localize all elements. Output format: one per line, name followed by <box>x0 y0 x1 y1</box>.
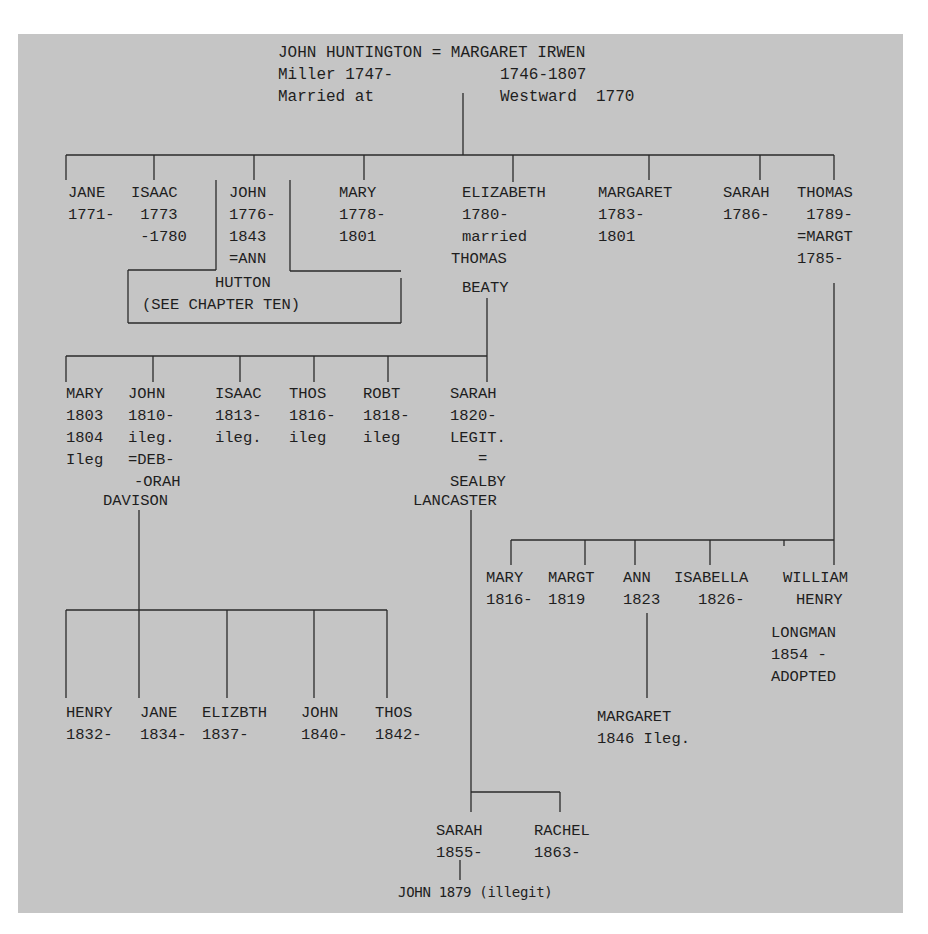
person-name: THOS <box>375 704 412 722</box>
person-name: MARY <box>339 184 376 202</box>
person-detail: 1776- <box>229 206 276 224</box>
hutton-box-line1: HUTTON <box>215 272 271 294</box>
person-detail: 1810- <box>128 407 175 425</box>
person-robt-beaty: ROBT 1818- ileg <box>363 383 410 449</box>
root-wife-note-2: Westward 1770 <box>500 86 634 108</box>
person-thos-davison: THOS 1842- <box>375 702 422 746</box>
root-husband-note-1: Miller 1747- <box>278 64 393 86</box>
person-detail: 1855- <box>436 844 483 862</box>
john-beaty-spouse-3: DAVISON <box>103 490 168 512</box>
person-detail: 1819 <box>548 591 585 609</box>
person-elizbth: ELIZBTH 1837- <box>202 702 267 746</box>
person-detail: 1780- <box>462 206 509 224</box>
person-john-davison: JOHN 1840- <box>301 702 348 746</box>
sarah-beaty-equals: = <box>478 448 487 470</box>
person-detail: ileg <box>363 429 400 447</box>
person-detail: 1846 Ileg. <box>597 730 690 748</box>
person-detail: 1816- <box>486 591 533 609</box>
person-isaac: ISAAC 1773 -1780 <box>131 182 187 248</box>
person-detail: 1785- <box>797 250 844 268</box>
root-wife-note-1: 1746-1807 <box>500 64 586 86</box>
person-name: JANE <box>140 704 177 722</box>
person-detail: ileg <box>289 429 326 447</box>
person-sarah-lancaster: SARAH 1855- <box>436 820 483 864</box>
hutton-box-line2: (SEE CHAPTER TEN) <box>142 294 300 316</box>
person-name: MARGARET <box>598 184 672 202</box>
person-detail: 1842- <box>375 726 422 744</box>
william-middle-name: HENRY <box>796 589 843 611</box>
person-name: HENRY <box>66 704 113 722</box>
root-couple: JOHN HUNTINGTON = MARGARET IRWEN <box>278 42 585 64</box>
person-name: SARAH <box>436 822 483 840</box>
person-detail: Ileg <box>66 451 103 469</box>
person-name: JOHN <box>229 184 266 202</box>
person-margaret-ann: MARGARET 1846 Ileg. <box>597 706 690 750</box>
person-detail: 1804 <box>66 429 103 447</box>
person-detail: -1780 <box>131 228 187 246</box>
person-elizabeth: ELIZABETH 1780- married <box>462 182 546 248</box>
person-john-1879: JOHN 1879 (illegit) <box>398 881 552 903</box>
person-mary-thomas: MARY 1816- <box>486 567 533 611</box>
person-name: ISAAC <box>131 184 178 202</box>
person-detail: 1803 <box>66 407 103 425</box>
person-rachel-lancaster: RACHEL 1863- <box>534 820 590 864</box>
person-detail: 1783- <box>598 206 645 224</box>
person-name: THOS <box>289 385 326 403</box>
person-detail: 1834- <box>140 726 187 744</box>
person-thomas: THOMAS 1789- =MARGT 1785- <box>797 182 853 270</box>
person-name: ISABELLA <box>674 569 748 587</box>
person-jane-davison: JANE 1834- <box>140 702 187 746</box>
elizabeth-spouse-last: BEATY <box>462 277 509 299</box>
person-name: JOHN <box>301 704 338 722</box>
sarah-beaty-spouse-2: LANCASTER <box>413 490 497 512</box>
person-detail: ileg. <box>215 429 262 447</box>
person-name: SARAH <box>723 184 770 202</box>
person-detail: 1823 <box>623 591 660 609</box>
person-detail: 1820- <box>450 407 497 425</box>
person-name: MARY <box>486 569 523 587</box>
person-name: ELIZBTH <box>202 704 267 722</box>
person-detail: ileg. <box>128 429 175 447</box>
person-detail: married <box>462 228 527 246</box>
elizabeth-spouse-first: THOMAS <box>451 248 507 270</box>
person-name: JOHN <box>128 385 165 403</box>
person-name: MARY <box>66 385 103 403</box>
person-detail: =MARGT <box>797 228 853 246</box>
william-note: ADOPTED <box>771 666 836 688</box>
person-thos-beaty: THOS 1816- ileg <box>289 383 336 449</box>
person-detail: 1789- <box>797 206 853 224</box>
person-detail: =ANN <box>229 250 266 268</box>
person-name: ELIZABETH <box>462 184 546 202</box>
person-john: JOHN 1776- 1843 =ANN <box>229 182 276 270</box>
person-detail: 1771- <box>68 206 115 224</box>
person-detail: =DEB- <box>128 451 175 469</box>
person-ann-thomas: ANN 1823 <box>623 567 660 611</box>
person-jane: JANE 1771- <box>68 182 115 226</box>
person-detail: 1843 <box>229 228 266 246</box>
person-name: RACHEL <box>534 822 590 840</box>
person-detail: 1801 <box>339 228 376 246</box>
person-detail: 1837- <box>202 726 249 744</box>
person-detail: 1786- <box>723 206 770 224</box>
person-mary-beaty: MARY 1803 1804 Ileg <box>66 383 103 471</box>
william-surname: LONGMAN <box>771 622 836 644</box>
person-detail: 1863- <box>534 844 581 862</box>
person-detail: 1801 <box>598 228 635 246</box>
person-name: SARAH <box>450 385 497 403</box>
person-mary: MARY 1778- 1801 <box>339 182 386 248</box>
william-year: 1854 - <box>771 644 827 666</box>
person-isabella-thomas: ISABELLA <box>674 567 748 589</box>
root-husband-note-2: Married at <box>278 86 374 108</box>
person-margaret: MARGARET 1783- 1801 <box>598 182 672 248</box>
person-name: MARGARET <box>597 708 671 726</box>
person-detail: 1778- <box>339 206 386 224</box>
person-detail: 1773 <box>131 206 178 224</box>
person-john-beaty: JOHN 1810- ileg. =DEB- <box>128 383 175 471</box>
person-henry: HENRY 1832- <box>66 702 113 746</box>
person-detail: 1816- <box>289 407 336 425</box>
person-margt-thomas: MARGT 1819 <box>548 567 595 611</box>
person-name: ANN <box>623 569 651 587</box>
person-name: ISAAC <box>215 385 262 403</box>
person-detail: 1818- <box>363 407 410 425</box>
person-sarah-beaty: SARAH 1820- LEGIT. <box>450 383 506 449</box>
